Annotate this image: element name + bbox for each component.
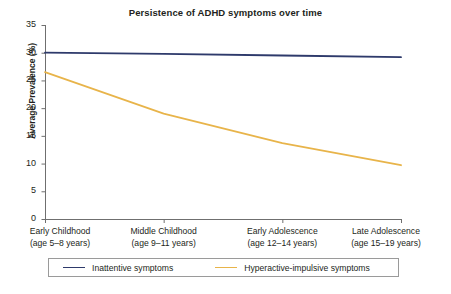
y-axis-tick-label: 30 xyxy=(10,47,36,57)
y-axis-tick-label: 0 xyxy=(10,213,36,223)
y-axis-tick-label: 5 xyxy=(10,185,36,195)
x-axis-tick-label-line: Middle Childhood xyxy=(104,226,224,238)
x-axis-tick-label: Late Adolescence(age 15–19 years) xyxy=(326,226,446,249)
legend-color-swatch xyxy=(215,267,237,268)
chart-legend: Inattentive symptomsHyperactive-impulsiv… xyxy=(48,258,399,277)
legend-label: Hyperactive-impulsive symptoms xyxy=(244,263,370,273)
y-axis-tick-label: 35 xyxy=(10,19,36,29)
x-axis-tick-label-line: Late Adolescence xyxy=(326,226,446,238)
x-axis-tick-label-line: (age 15–19 years) xyxy=(326,238,446,250)
chart-container: Persistence of ADHD symptoms over time A… xyxy=(0,0,451,294)
x-axis-tick-label: Middle Childhood(age 9–11 years) xyxy=(104,226,224,249)
plot-area xyxy=(0,0,451,294)
x-axis-tick-label-line: (age 12–14 years) xyxy=(222,238,342,250)
legend-label: Inattentive symptoms xyxy=(92,263,173,273)
legend-item[interactable]: Inattentive symptoms xyxy=(63,263,173,273)
series-line xyxy=(45,53,401,57)
x-axis-tick-label-line: Early Childhood xyxy=(0,226,120,238)
legend-color-swatch xyxy=(63,267,85,268)
y-axis-tick-label: 25 xyxy=(10,74,36,84)
y-axis-tick-label: 15 xyxy=(10,130,36,140)
x-axis-tick-label-line: Early Adolescence xyxy=(222,226,342,238)
y-axis-ticks xyxy=(42,26,46,220)
x-axis-tick-label-line: (age 9–11 years) xyxy=(104,238,224,250)
series-line xyxy=(45,72,401,165)
x-axis-tick-label-line: (age 5–8 years) xyxy=(0,238,120,250)
y-axis-tick-label: 10 xyxy=(10,158,36,168)
x-axis-tick-label: Early Childhood(age 5–8 years) xyxy=(0,226,120,249)
y-axis-tick-label: 20 xyxy=(10,102,36,112)
x-axis-tick-label: Early Adolescence(age 12–14 years) xyxy=(222,226,342,249)
legend-item[interactable]: Hyperactive-impulsive symptoms xyxy=(215,263,370,273)
data-series-group xyxy=(45,53,401,166)
